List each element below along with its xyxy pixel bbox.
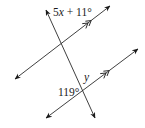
- lower-parallel-line: [46, 49, 138, 118]
- top-angle-label: 5x + 11°: [53, 6, 92, 18]
- bottom-angle-label: 119°: [58, 86, 80, 98]
- transversal-line: [46, 10, 95, 118]
- upper-parallel-marks-icon: [82, 18, 93, 28]
- geometry-diagram: 5x + 11° y 119°: [0, 0, 145, 128]
- y-angle-label: y: [83, 71, 90, 84]
- lower-parallel-marks-icon: [100, 68, 111, 78]
